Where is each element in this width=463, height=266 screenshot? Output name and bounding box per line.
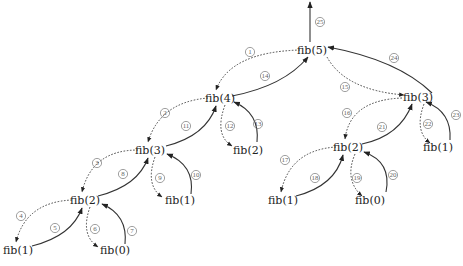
fib-call-tree-diagram: 1234567891011121314151617181920212223242… [0,0,463,266]
step-number-text: 24 [391,54,399,62]
node-n3a: fib(3) [135,144,165,157]
edge-step-7-return [102,204,125,244]
step-number-text: 2 [163,109,167,117]
step-number-text: 7 [130,227,134,235]
step-label-12: 12 [225,121,234,130]
step-number-text: 3 [95,159,99,167]
step-number-text: 8 [121,170,125,178]
step-label-23: 23 [451,110,460,119]
edge-step-1-call [216,50,300,90]
node-n1c: fib(1) [268,194,298,207]
node-n1a: fib(1) [3,244,33,257]
step-number-text: 1 [248,48,252,56]
edge-step-14-return [232,57,308,96]
step-number-text: 19 [354,174,362,182]
step-label-2: 2 [160,108,169,117]
step-number-text: 4 [19,212,23,220]
step-number-text: 21 [379,123,387,131]
step-label-19: 19 [352,173,361,182]
step-label-13: 13 [253,119,262,128]
step-number-text: 10 [193,171,201,179]
step-number-text: 13 [255,120,263,128]
step-number-text: 17 [282,156,290,164]
step-number-text: 15 [342,83,350,91]
step-label-11: 11 [181,121,190,130]
step-label-9: 9 [155,173,164,182]
step-label-15: 15 [340,82,349,91]
node-n0c: fib(0) [355,194,385,207]
step-label-14: 14 [260,71,269,80]
edge-step-18-return [296,155,343,196]
node-n3b: fib(3) [403,91,433,104]
step-number-text: 25 [317,18,325,26]
step-number-text: 22 [425,120,433,128]
edge-step-4-call [16,200,72,242]
node-n2c: fib(2) [333,141,363,154]
nodes-layer: fib(5)fib(4)fib(3)fib(2)fib(1)fib(0)fib(… [3,44,453,257]
edge-step-10-return [167,154,192,194]
step-number-text: 9 [158,174,162,182]
step-label-25: 25 [315,17,324,26]
step-label-18: 18 [310,173,319,182]
node-n4: fib(4) [205,92,235,105]
step-label-8: 8 [118,169,127,178]
node-n1d: fib(1) [423,141,453,154]
step-number-text: 14 [262,72,270,80]
step-number-text: 11 [183,122,190,130]
step-label-4: 4 [16,211,25,220]
edge-step-16-call [345,98,402,139]
step-number-text: 20 [390,171,398,179]
step-label-24: 24 [389,53,398,62]
step-label-1: 1 [245,47,254,56]
step-label-16: 16 [342,108,351,117]
edge-step-11-return [166,106,216,146]
step-label-17: 17 [280,155,289,164]
edge-step-2-call [148,98,208,142]
node-n2a: fib(2) [70,194,100,207]
edge-step-21-return [362,104,412,144]
step-label-10: 10 [191,170,200,179]
node-n0a: fib(0) [100,244,130,257]
step-label-22: 22 [423,119,432,128]
node-n1b: fib(1) [165,194,195,207]
edge-step-5-return [32,208,82,246]
edge-step-17-call [281,147,336,192]
step-label-6: 6 [90,224,99,233]
step-number-text: 5 [53,224,57,232]
step-label-3: 3 [92,158,101,167]
edge-step-3-call [82,150,138,192]
step-number-text: 16 [344,109,352,117]
node-n2b: fib(2) [233,144,263,157]
edge-step-20-return [364,152,387,192]
step-number-text: 12 [227,122,235,130]
step-label-20: 20 [388,170,397,179]
step-label-21: 21 [377,122,386,131]
step-label-7: 7 [127,226,136,235]
step-number-text: 23 [453,111,461,119]
node-n5: fib(5) [297,44,327,57]
step-number-text: 18 [312,174,320,182]
step-label-5: 5 [50,223,59,232]
step-number-text: 6 [93,225,97,233]
